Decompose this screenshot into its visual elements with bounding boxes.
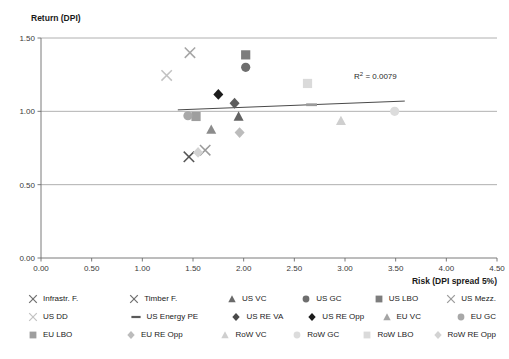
legend-item-label: US RE Opp (322, 311, 364, 323)
data-point-eu-vc (234, 111, 244, 120)
square-swatch-icon (372, 293, 386, 305)
x-tick-label: 0.50 (84, 264, 100, 273)
x-tick-label: 1.50 (185, 264, 201, 273)
legend-item-timber-f[interactable]: Timber F. (127, 293, 225, 305)
legend-item-label: Timber F. (144, 293, 177, 305)
y-axis-title: Return (DPI) (31, 13, 81, 23)
legend-item-label: Infrastr. F. (43, 293, 78, 305)
legend-item-label: US VC (242, 293, 266, 305)
chart-annotations: R2 = 0.0079 (354, 71, 397, 81)
r-squared-annotation: R2 = 0.0079 (354, 71, 397, 81)
legend-item-row-gc[interactable]: RoW GC (290, 329, 360, 341)
dash-marker-icon (130, 311, 142, 323)
axis-lines (41, 38, 497, 258)
legend-item-eu-vc[interactable]: EU VC (380, 311, 454, 323)
square-marker-icon (27, 329, 39, 341)
diamond-swatch-icon (431, 329, 445, 341)
legend-item-us-vc[interactable]: US VC (225, 293, 299, 305)
chart-legend: Infrastr. F.Timber F.US VCUS GCUS LBOUS … (26, 290, 496, 350)
legend-item-row-lbo[interactable]: RoW LBO (360, 329, 430, 341)
legend-item-us-re-opp[interactable]: US RE Opp (305, 311, 379, 323)
legend-item-label: RoW GC (307, 329, 339, 341)
legend-item-us-lbo[interactable]: US LBO (372, 293, 445, 305)
x-tick-label: 4.50 (489, 264, 505, 273)
x-tick-label: 1.00 (135, 264, 151, 273)
square-swatch-icon (360, 329, 374, 341)
square-marker-icon (373, 293, 385, 305)
circle-swatch-icon (454, 311, 468, 323)
circle-marker-icon (291, 329, 303, 341)
data-point-us-gc (241, 63, 250, 72)
legend-row: Infrastr. F.Timber F.US VCUS GCUS LBOUS … (26, 290, 496, 308)
data-point-us-mezz (185, 47, 195, 57)
legend-item-eu-gc[interactable]: EU GC (454, 311, 496, 323)
data-point-row-re-opp (193, 147, 203, 158)
legend-item-label: EU RE Opp (141, 329, 183, 341)
diamond-marker-icon (230, 311, 242, 323)
legend-item-us-gc[interactable]: US GC (299, 293, 372, 305)
data-points (161, 47, 399, 162)
axis-ticks (38, 38, 498, 262)
legend-item-us-re-va[interactable]: US RE VA (229, 311, 305, 323)
diamond-swatch-icon (229, 311, 243, 323)
triangle-marker-icon (381, 311, 393, 323)
legend-item-us-dd[interactable]: US DD (26, 311, 129, 323)
legend-item-label: RoW RE Opp (448, 329, 496, 341)
legend-item-label: EU GC (471, 311, 496, 323)
circle-swatch-icon (290, 329, 304, 341)
data-point-us-dd (161, 70, 171, 80)
x-thin-swatch-icon (26, 311, 40, 323)
triangle-marker-icon (226, 293, 238, 305)
axis-titles: Return (DPI) Risk (DPI spread 5%) (31, 13, 497, 286)
data-point-eu-gc (183, 111, 192, 120)
y-tick-label: 0.50 (19, 181, 35, 190)
legend-item-eu-lbo[interactable]: EU LBO (26, 329, 124, 341)
data-point-row-lbo (303, 79, 312, 88)
x-thin-swatch-icon (444, 293, 458, 305)
data-point-us-re-opp (213, 89, 223, 100)
diamond-marker-icon (432, 329, 444, 341)
data-point-row-gc (390, 107, 399, 116)
legend-row: US DDUS Energy PEUS RE VAUS RE OppEU VCE… (26, 308, 496, 326)
trendline (178, 101, 405, 110)
circle-swatch-icon (299, 293, 313, 305)
x-thin-marker-icon (27, 311, 39, 323)
y-tick-label: 1.00 (19, 107, 35, 116)
legend-item-us-mezz[interactable]: US Mezz. (444, 293, 496, 305)
triangle-swatch-icon (380, 311, 394, 323)
square-marker-icon (361, 329, 373, 341)
legend-item-label: RoW LBO (377, 329, 413, 341)
x-axis-title: Risk (DPI spread 5%) (412, 276, 497, 286)
legend-item-label: US RE VA (246, 311, 283, 323)
circle-marker-icon (300, 293, 312, 305)
scatter-chart: Return (DPI) Risk (DPI spread 5%) 0.000.… (0, 0, 509, 359)
legend-item-row-vc[interactable]: RoW VC (218, 329, 290, 341)
dash-swatch-icon (129, 311, 143, 323)
x-thin-swatch-icon (26, 293, 40, 305)
x-tick-label: 3.00 (337, 264, 353, 273)
diamond-marker-icon (306, 311, 318, 323)
triangle-marker-icon (219, 329, 231, 341)
legend-item-label: US Energy PE (146, 311, 198, 323)
tick-labels: 0.000.501.001.502.002.503.003.504.004.50… (19, 34, 505, 273)
data-point-us-energy-pe (306, 103, 317, 106)
data-point-us-lbo (241, 50, 250, 59)
legend-item-label: RoW VC (235, 329, 266, 341)
legend-item-row-re-opp[interactable]: RoW RE Opp (431, 329, 496, 341)
legend-item-us-energy-pe[interactable]: US Energy PE (129, 311, 229, 323)
x-thin-marker-icon (445, 293, 457, 305)
x-tick-label: 4.00 (439, 264, 455, 273)
legend-item-eu-re-opp[interactable]: EU RE Opp (124, 329, 219, 341)
square-swatch-icon (26, 329, 40, 341)
data-point-us-vc (206, 124, 216, 133)
x-thin-marker-icon (27, 293, 39, 305)
data-point-eu-re-opp (235, 127, 245, 138)
legend-item-label: US Mezz. (461, 293, 496, 305)
legend-item-infrastr-f[interactable]: Infrastr. F. (26, 293, 127, 305)
y-tick-label: 1.50 (19, 34, 35, 43)
legend-item-label: EU LBO (43, 329, 72, 341)
x-thin-swatch-icon (127, 293, 141, 305)
diamond-marker-icon (125, 329, 137, 341)
legend-row: EU LBOEU RE OppRoW VCRoW GCRoW LBORoW RE… (26, 326, 496, 344)
x-thin-marker-icon (128, 293, 140, 305)
